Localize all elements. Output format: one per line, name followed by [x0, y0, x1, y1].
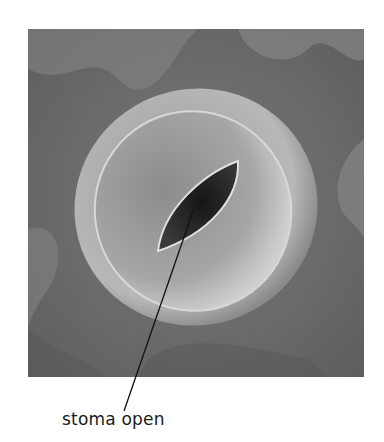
stoma-micrograph — [28, 29, 364, 377]
stoma-open-label: stoma open — [62, 409, 165, 429]
